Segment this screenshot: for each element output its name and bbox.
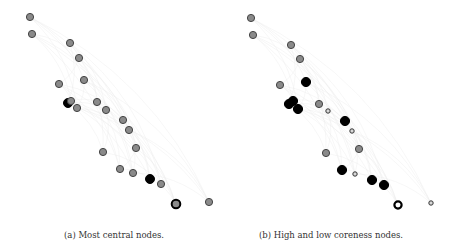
nodes [26,13,212,208]
graph-node [99,148,106,155]
graph-node [205,198,212,205]
graph-node [132,144,139,151]
graph-node [125,126,132,133]
caption-b: (b) High and low coreness nodes. [259,230,403,240]
graph-node [394,201,401,208]
graph-node [296,55,303,62]
graph-node [80,76,87,83]
graph-node [301,77,310,86]
graph-node [293,104,302,113]
graph-node [67,97,74,104]
graph-node [315,100,322,107]
graph-node [340,116,349,125]
graph-node [337,165,346,174]
graph-node [157,180,164,187]
graph-node [93,98,100,105]
graph-node [66,39,73,46]
edges [251,18,431,205]
graph-node [379,180,388,189]
graph-node [55,80,62,87]
graph-node [288,96,297,105]
graph-node [287,41,294,48]
graph-node [350,129,354,133]
graph-node [247,14,254,21]
graph-node [26,13,33,20]
network-graph-b [229,0,458,222]
graph-node [28,30,35,37]
graph-node [249,31,256,38]
graph-node [119,116,126,123]
graph-node [355,145,362,152]
graph-node [116,165,123,172]
graph-node [353,172,357,176]
graph-node [73,104,80,111]
edges [30,17,209,204]
graph-node [429,201,433,205]
graph-node [102,106,109,113]
graph-node [129,169,136,176]
nodes [247,14,433,208]
network-graph-a [0,0,229,222]
graph-node [367,175,376,184]
graph-node [172,200,181,209]
graph-node [322,149,329,156]
panel-most-central-nodes: (a) Most central nodes. [0,0,229,250]
graph-node [75,54,82,61]
panel-coreness-nodes: (b) High and low coreness nodes. [229,0,458,250]
caption-a: (a) Most central nodes. [64,230,164,240]
graph-node [276,81,283,88]
graph-node [146,175,155,184]
graph-node [326,109,330,113]
